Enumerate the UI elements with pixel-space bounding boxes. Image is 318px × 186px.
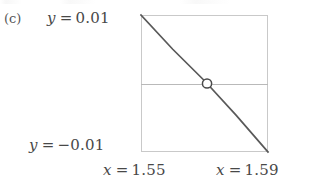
plot-area xyxy=(141,15,268,152)
y-axis-top-label: y=0.01 xyxy=(47,11,110,26)
y-axis-top-label-equals: = xyxy=(57,9,76,27)
y-axis-bottom-label: y=−0.01 xyxy=(29,138,104,153)
figure-panel-c: (c) y=0.01 y=−0.01 x=1.55 x=1.59 xyxy=(0,0,318,186)
y-axis-top-label-value: 0.01 xyxy=(75,9,109,27)
y-axis-bottom-label-variable: y xyxy=(29,136,39,154)
x-axis-left-label-variable: x xyxy=(103,161,113,179)
y-axis-top-label-variable: y xyxy=(47,9,57,27)
panel-letter: (c) xyxy=(4,12,21,25)
x-axis-left-label-value: 1.55 xyxy=(131,161,165,179)
x-axis-right-label-equals: = xyxy=(226,161,245,179)
plot-svg xyxy=(141,15,268,152)
y-axis-bottom-label-equals: = xyxy=(39,136,58,154)
y-axis-bottom-label-value: −0.01 xyxy=(57,136,104,154)
x-axis-right-label-variable: x xyxy=(216,161,226,179)
x-axis-left-label: x=1.55 xyxy=(103,163,166,178)
x-axis-left-label-equals: = xyxy=(113,161,132,179)
root-marker-icon xyxy=(202,79,211,88)
clipped-row-remnant xyxy=(0,0,318,4)
x-axis-right-label: x=1.59 xyxy=(216,163,279,178)
x-axis-right-label-value: 1.59 xyxy=(244,161,278,179)
